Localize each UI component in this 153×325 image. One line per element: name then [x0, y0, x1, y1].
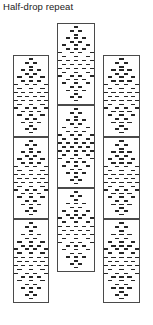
motif-dash — [127, 257, 131, 259]
motif-dash — [86, 127, 90, 129]
motif-dash — [29, 280, 33, 282]
motif-dash — [111, 122, 115, 124]
repeat-panel — [13, 55, 49, 137]
motif-dash — [74, 245, 78, 247]
motif-dash — [70, 179, 74, 181]
motif-dash — [119, 125, 123, 127]
motif-dash — [74, 214, 78, 216]
motif-dash — [115, 248, 119, 250]
motif-dash — [33, 118, 37, 120]
motif-dash — [21, 245, 25, 247]
motif-dash — [124, 62, 128, 64]
motif-dash — [33, 284, 37, 286]
motif-dash — [111, 100, 115, 102]
motif-dash — [44, 92, 48, 94]
motif-dash — [111, 80, 115, 82]
motif-dash — [86, 238, 90, 240]
motif-dash — [62, 221, 66, 223]
motif-dash — [124, 189, 128, 191]
motif-dash — [108, 280, 112, 282]
motif-dash — [37, 204, 41, 206]
motif-dash — [33, 62, 37, 64]
motif-dash — [44, 189, 48, 191]
motif-dash — [74, 191, 78, 193]
motif-dash — [17, 104, 21, 106]
motif-dash — [29, 222, 33, 224]
motif-dash — [115, 84, 119, 86]
motif-dash — [21, 234, 25, 236]
motif-dash — [108, 88, 112, 90]
motif-dash — [33, 107, 37, 109]
motif-dash — [124, 210, 128, 212]
motif-dash — [111, 193, 115, 195]
motif-dash — [127, 204, 131, 206]
motif-dash — [124, 84, 128, 86]
motif-dash — [74, 176, 78, 178]
motif-dash — [66, 245, 70, 247]
motif-dash — [74, 199, 78, 201]
motif-dash — [74, 108, 78, 110]
motif-dash — [25, 200, 29, 202]
motif-dash — [111, 111, 115, 113]
diamond-dash-motif — [58, 189, 94, 271]
motif-dash — [104, 84, 108, 86]
motif-dash — [58, 52, 62, 54]
motif-dash — [40, 269, 44, 271]
motif-dash — [90, 217, 94, 219]
motif-dash — [29, 241, 33, 243]
motif-dash — [29, 207, 33, 209]
motif-dash — [29, 140, 33, 142]
motif-dash — [74, 238, 78, 240]
motif-dash — [119, 265, 123, 267]
motif-dash — [37, 92, 41, 94]
diamond-dash-motif — [58, 106, 94, 187]
motif-dash — [90, 242, 94, 244]
motif-dash — [37, 193, 41, 195]
motif-dash — [115, 238, 119, 240]
motif-dash — [74, 100, 78, 102]
motif-dash — [127, 162, 131, 164]
motif-dash — [108, 269, 112, 271]
middle-column — [57, 0, 95, 325]
motif-dash — [70, 134, 74, 136]
motif-dash — [86, 72, 90, 74]
motif-dash — [33, 238, 37, 240]
motif-dash — [29, 174, 33, 176]
motif-dash — [78, 52, 82, 54]
motif-dash — [58, 242, 62, 244]
motif-dash — [37, 80, 41, 82]
repeat-panel — [13, 219, 49, 303]
motif-dash — [14, 257, 18, 259]
motif-dash — [58, 150, 62, 152]
motif-dash — [74, 138, 78, 140]
motif-dash — [33, 210, 37, 212]
motif-dash — [119, 280, 123, 282]
motif-dash — [29, 80, 33, 82]
motif-dash — [29, 257, 33, 259]
motif-dash — [62, 238, 66, 240]
motif-dash — [33, 248, 37, 250]
motif-dash — [33, 128, 37, 130]
motif-dash — [115, 273, 119, 275]
motif-dash — [131, 96, 135, 98]
motif-dash — [21, 287, 25, 289]
motif-dash — [119, 245, 123, 247]
motif-dash — [119, 162, 123, 164]
motif-dash — [86, 82, 90, 84]
motif-dash — [104, 107, 108, 109]
motif-dash — [135, 257, 139, 259]
motif-dash — [40, 158, 44, 160]
motif-dash — [127, 276, 131, 278]
motif-dash — [135, 265, 139, 267]
motif-dash — [37, 122, 41, 124]
motif-dash — [115, 155, 119, 157]
motif-dash — [70, 86, 74, 88]
motif-dash — [70, 52, 74, 54]
motif-dash — [74, 210, 78, 212]
motif-dash — [124, 155, 128, 157]
motif-dash — [29, 291, 33, 293]
motif-dash — [108, 178, 112, 180]
motif-dash — [90, 134, 94, 136]
motif-dash — [29, 125, 33, 127]
motif-dash — [131, 261, 135, 263]
